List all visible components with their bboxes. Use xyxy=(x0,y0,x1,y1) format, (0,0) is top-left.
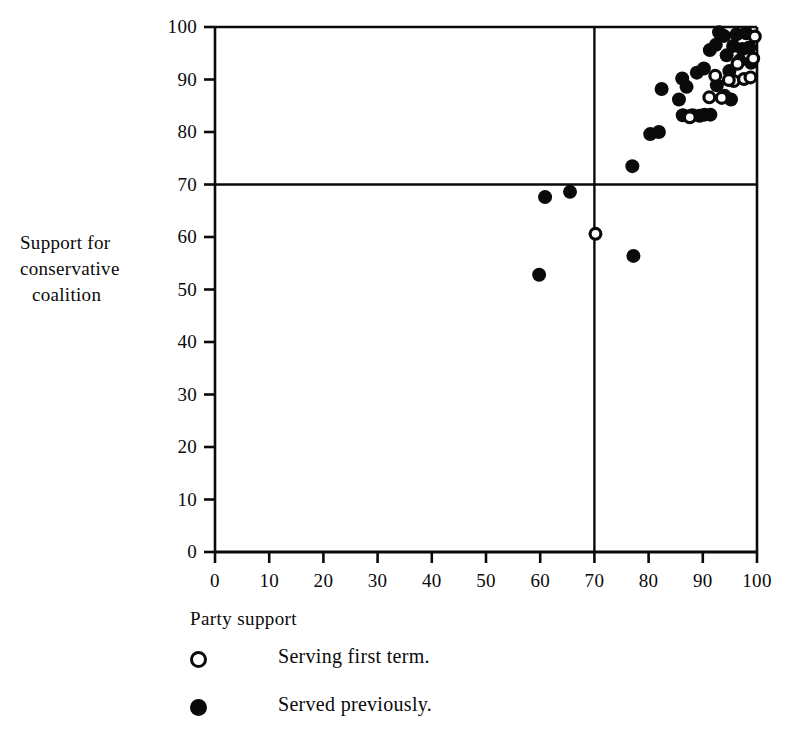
data-point-open-circle xyxy=(710,70,721,81)
data-point-open-circle xyxy=(590,228,601,239)
series-served-previously-points xyxy=(532,25,758,282)
y-axis-title-line-1: Support for xyxy=(14,230,164,256)
reference-lines xyxy=(215,27,757,552)
data-point-filled-circle xyxy=(532,268,546,282)
y-tick-label: 100 xyxy=(168,17,197,36)
data-point-open-circle xyxy=(684,112,695,123)
y-tick-label: 90 xyxy=(177,70,197,89)
y-axis-title-line-2: conservative xyxy=(14,256,164,282)
axis-ticks xyxy=(204,27,757,563)
y-tick-label: 60 xyxy=(177,227,197,246)
legend-label-serving-first-term: Serving first term. xyxy=(278,645,430,668)
chart-legend: Serving first term. Served previously. xyxy=(190,645,610,741)
y-tick-label: 70 xyxy=(177,175,197,194)
y-axis-title-line-3: coalition xyxy=(14,282,164,308)
data-point-open-circle xyxy=(732,58,743,69)
filled-circle-icon xyxy=(190,699,207,716)
data-point-open-circle xyxy=(748,53,759,64)
y-tick-label: 40 xyxy=(177,332,197,351)
data-point-filled-circle xyxy=(680,80,694,94)
data-point-filled-circle xyxy=(563,185,577,199)
data-point-filled-circle xyxy=(626,249,640,263)
data-point-open-circle xyxy=(745,72,756,83)
legend-entry-served-previously: Served previously. xyxy=(190,693,610,741)
y-tick-label: 0 xyxy=(187,542,197,561)
x-tick-label: 100 xyxy=(717,571,797,590)
legend-label-served-previously: Served previously. xyxy=(278,693,432,716)
data-point-filled-circle xyxy=(655,82,669,96)
x-axis-title: Party support xyxy=(0,608,799,630)
y-tick-label: 80 xyxy=(177,122,197,141)
y-tick-label: 30 xyxy=(177,385,197,404)
scatter-plot-figure: 0102030405060708090100 01020304050607080… xyxy=(0,0,799,751)
plot-canvas xyxy=(0,0,799,751)
x-axis-title-text: Party support xyxy=(190,608,297,629)
data-point-filled-circle xyxy=(538,190,552,204)
data-point-filled-circle xyxy=(652,125,666,139)
series-serving-first-term-points xyxy=(590,31,760,239)
data-point-filled-circle xyxy=(625,159,639,173)
data-point-filled-circle xyxy=(672,92,686,106)
y-tick-label: 20 xyxy=(177,437,197,456)
y-tick-label: 10 xyxy=(177,490,197,509)
data-point-filled-circle xyxy=(703,108,717,122)
data-point-open-circle xyxy=(749,31,760,42)
y-tick-label: 50 xyxy=(177,280,197,299)
y-axis-title: Support for conservative coalition xyxy=(14,230,164,308)
data-point-open-circle xyxy=(723,75,734,86)
legend-entry-serving-first-term: Serving first term. xyxy=(190,645,610,693)
data-point-open-circle xyxy=(716,92,727,103)
open-circle-icon xyxy=(190,651,207,668)
plot-frame xyxy=(215,27,757,552)
data-point-open-circle xyxy=(704,92,715,103)
